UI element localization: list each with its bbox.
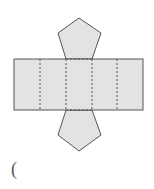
prism-net-diagram xyxy=(0,0,154,189)
lateral-faces-rectangle xyxy=(14,59,143,110)
answer-open-parenthesis: ( xyxy=(11,160,17,178)
top-pentagon-face xyxy=(58,18,101,59)
bottom-pentagon-face xyxy=(58,110,101,151)
